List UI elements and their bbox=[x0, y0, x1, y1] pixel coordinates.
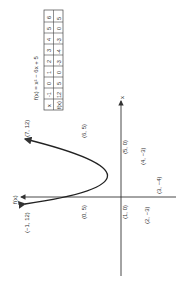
table-header-fx: f(x) bbox=[56, 101, 62, 109]
parabola-curve bbox=[25, 139, 108, 204]
x-axis-label: x bbox=[119, 96, 125, 99]
point-label: (4, −3) bbox=[140, 147, 146, 165]
fx-axis-label: f(x) bbox=[12, 195, 18, 204]
table-cell: 3 bbox=[46, 49, 52, 52]
point-label: (5, 0) bbox=[122, 140, 128, 154]
table-cell: 5 bbox=[46, 27, 52, 30]
value-table: x f(x) -1 0 1 2 3 4 5 6 12 5 0 -3 -4 -3 … bbox=[44, 10, 63, 110]
point-label: (3, −4) bbox=[156, 176, 162, 194]
table-cell: 5 bbox=[56, 82, 62, 85]
parabola-figure: f(x) = x² − 6x + 5 x f(x) -1 0 1 2 3 4 5… bbox=[0, 0, 184, 296]
table-cell: 0 bbox=[46, 82, 52, 85]
table-cell: -3 bbox=[56, 60, 62, 65]
table-header-x: x bbox=[46, 104, 52, 107]
table-cell: -4 bbox=[56, 49, 62, 54]
table-cell: 4 bbox=[46, 38, 52, 41]
equation-label: f(x) = x² − 6x + 5 bbox=[33, 55, 39, 100]
point-label: (7, 12) bbox=[24, 120, 30, 137]
point-label: (6, 5) bbox=[81, 124, 87, 138]
table-cell: 12 bbox=[56, 92, 62, 98]
point-label: (−1, 12) bbox=[24, 212, 30, 233]
table-cell: 0 bbox=[56, 71, 62, 74]
table-cell: -3 bbox=[56, 38, 62, 43]
table-cell: 6 bbox=[46, 16, 52, 19]
table-cell: 5 bbox=[56, 17, 62, 20]
point-label: (1, 0) bbox=[122, 205, 128, 219]
point-label: (0, 5) bbox=[81, 205, 87, 219]
table-cell: 2 bbox=[46, 60, 52, 63]
table-cell: -1 bbox=[46, 92, 52, 97]
table-cell: 0 bbox=[56, 27, 62, 30]
point-label: (2, −3) bbox=[144, 206, 150, 224]
table-cell: 1 bbox=[46, 71, 52, 74]
